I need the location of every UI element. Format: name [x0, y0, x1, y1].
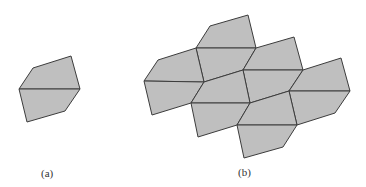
panel-a-label: (a): [41, 167, 53, 179]
panel-b-tiling: [144, 15, 350, 158]
panel-a-tile: [19, 56, 80, 122]
tiling-figure: [0, 0, 366, 187]
panel-b-label: (b): [238, 166, 251, 178]
